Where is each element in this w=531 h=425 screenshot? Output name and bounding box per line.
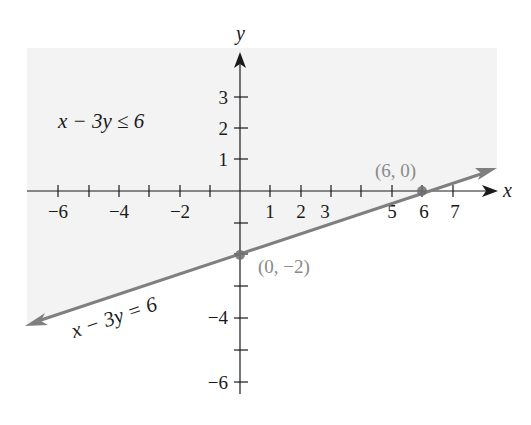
y-tick-label: 3 (219, 87, 229, 108)
x-tick-label: −2 (170, 201, 190, 222)
x-tick-label: 7 (450, 201, 460, 222)
x-tick-label: 1 (265, 201, 275, 222)
graph: x −6 −4 −2 1 2 3 5 6 7 y 3 2 1 −4 −6 (0, 0, 531, 425)
point-0-m2 (235, 250, 245, 260)
point-6-0 (417, 186, 427, 196)
y-tick-label: −4 (208, 307, 229, 328)
x-tick-label: 3 (320, 201, 330, 222)
y-tick-label: −6 (208, 372, 228, 393)
x-tick-label: 2 (296, 201, 306, 222)
y-axis-label: y (234, 22, 245, 45)
x-tick-label: −6 (48, 201, 68, 222)
point-label-6-0: (6, 0) (375, 160, 416, 182)
x-axis-label: x (502, 179, 512, 201)
y-tick-label: 2 (219, 118, 229, 139)
inequality-label: x − 3y ≤ 6 (57, 109, 145, 133)
x-tick-label: −4 (109, 201, 130, 222)
shaded-region (27, 48, 497, 325)
y-tick-label: 1 (219, 149, 229, 170)
point-label-0-m2: (0, −2) (258, 256, 310, 278)
x-tick-label: 6 (419, 201, 429, 222)
